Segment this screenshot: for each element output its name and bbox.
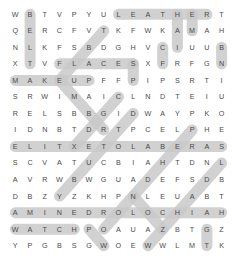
grid-cell[interactable]: W <box>141 105 156 122</box>
grid-cell[interactable]: D <box>82 122 97 139</box>
grid-cell[interactable]: G <box>96 105 111 122</box>
grid-cell[interactable]: A <box>8 204 23 221</box>
grid-cell[interactable]: P <box>67 6 82 23</box>
grid-cell[interactable]: O <box>111 204 126 221</box>
grid-cell[interactable]: H <box>170 204 185 221</box>
grid-cell[interactable]: L <box>170 237 185 254</box>
grid-cell[interactable]: W <box>141 23 156 40</box>
grid-cell[interactable]: I <box>96 89 111 106</box>
grid-cell[interactable]: A <box>155 105 170 122</box>
grid-cell[interactable]: B <box>214 39 229 56</box>
grid-cell[interactable]: W <box>155 237 170 254</box>
grid-cell[interactable]: Q <box>8 23 23 40</box>
grid-cell[interactable]: A <box>8 171 23 188</box>
grid-cell[interactable]: L <box>214 155 229 172</box>
grid-cell[interactable]: H <box>200 122 215 139</box>
grid-cell[interactable]: H <box>155 155 170 172</box>
grid-cell[interactable]: K <box>37 72 52 89</box>
grid-cell[interactable]: C <box>96 155 111 172</box>
grid-cell[interactable]: Z <box>155 221 170 238</box>
grid-cell[interactable]: H <box>96 188 111 205</box>
grid-cell[interactable]: D <box>200 171 215 188</box>
grid-cell[interactable]: P <box>185 105 200 122</box>
grid-cell[interactable]: U <box>126 221 141 238</box>
grid-cell[interactable]: N <box>37 122 52 139</box>
grid-cell[interactable]: T <box>170 155 185 172</box>
grid-cell[interactable]: U <box>82 155 97 172</box>
grid-cell[interactable]: A <box>126 171 141 188</box>
grid-cell[interactable]: D <box>23 122 38 139</box>
grid-cell[interactable]: U <box>200 39 215 56</box>
grid-cell[interactable]: B <box>23 6 38 23</box>
grid-cell[interactable]: U <box>214 89 229 106</box>
grid-cell[interactable]: K <box>82 188 97 205</box>
grid-cell[interactable]: E <box>126 237 141 254</box>
grid-cell[interactable]: D <box>8 188 23 205</box>
grid-cell[interactable]: W <box>96 237 111 254</box>
grid-cell[interactable]: S <box>52 105 67 122</box>
grid-cell[interactable]: M <box>185 23 200 40</box>
grid-cell[interactable]: W <box>8 6 23 23</box>
grid-cell[interactable]: W <box>82 171 97 188</box>
grid-cell[interactable]: A <box>170 23 185 40</box>
grid-cell[interactable]: A <box>200 204 215 221</box>
grid-cell[interactable]: V <box>141 39 156 56</box>
grid-cell[interactable]: B <box>52 237 67 254</box>
grid-cell[interactable]: Y <box>52 188 67 205</box>
grid-cell[interactable]: Z <box>37 188 52 205</box>
grid-cell[interactable]: R <box>185 138 200 155</box>
grid-cell[interactable]: P <box>111 188 126 205</box>
grid-cell[interactable]: E <box>8 138 23 155</box>
grid-cell[interactable]: P <box>155 72 170 89</box>
grid-cell[interactable]: M <box>23 204 38 221</box>
grid-cell[interactable]: F <box>170 171 185 188</box>
grid-cell[interactable]: X <box>141 56 156 73</box>
grid-cell[interactable]: B <box>111 155 126 172</box>
grid-cell[interactable]: E <box>82 138 97 155</box>
grid-cell[interactable]: D <box>82 204 97 221</box>
grid-cell[interactable]: E <box>23 105 38 122</box>
grid-cell[interactable]: X <box>8 56 23 73</box>
grid-cell[interactable]: U <box>170 188 185 205</box>
grid-cell[interactable]: O <box>111 138 126 155</box>
grid-cell[interactable]: P <box>185 122 200 139</box>
grid-cell[interactable]: V <box>37 56 52 73</box>
grid-cell[interactable]: G <box>82 237 97 254</box>
grid-cell[interactable]: E <box>185 6 200 23</box>
grid-cell[interactable]: T <box>214 6 229 23</box>
grid-cell[interactable]: V <box>23 171 38 188</box>
grid-cell[interactable]: W <box>8 221 23 238</box>
grid-cell[interactable]: E <box>155 188 170 205</box>
grid-cell[interactable]: E <box>111 56 126 73</box>
grid-cell[interactable]: V <box>37 155 52 172</box>
grid-cell[interactable]: D <box>185 155 200 172</box>
grid-cell[interactable]: A <box>141 138 156 155</box>
grid-cell[interactable]: G <box>200 56 215 73</box>
grid-cell[interactable]: V <box>82 23 97 40</box>
grid-cell[interactable]: L <box>67 56 82 73</box>
grid-cell[interactable]: V <box>52 6 67 23</box>
grid-cell[interactable]: D <box>155 89 170 106</box>
grid-cell[interactable]: T <box>52 138 67 155</box>
grid-cell[interactable]: N <box>52 204 67 221</box>
grid-cell[interactable]: A <box>23 221 38 238</box>
grid-cell[interactable]: A <box>141 155 156 172</box>
grid-cell[interactable]: T <box>185 221 200 238</box>
grid-cell[interactable]: U <box>67 72 82 89</box>
grid-cell[interactable]: C <box>96 56 111 73</box>
grid-cell[interactable]: I <box>170 39 185 56</box>
grid-cell[interactable]: S <box>214 138 229 155</box>
grid-cell[interactable]: C <box>111 89 126 106</box>
grid-cell[interactable]: R <box>37 171 52 188</box>
grid-cell[interactable]: I <box>200 89 215 106</box>
grid-cell[interactable]: T <box>96 23 111 40</box>
grid-cell[interactable]: F <box>52 39 67 56</box>
grid-cell[interactable]: M <box>185 237 200 254</box>
grid-cell[interactable]: L <box>111 6 126 23</box>
grid-cell[interactable]: O <box>96 221 111 238</box>
grid-cell[interactable]: A <box>185 188 200 205</box>
letter-grid[interactable]: WBTVPYULEATHERTQERCFVTKFWKAMAHNLKFSBDGHV… <box>0 0 237 260</box>
grid-cell[interactable]: I <box>37 138 52 155</box>
grid-cell[interactable]: P <box>82 72 97 89</box>
grid-cell[interactable]: F <box>67 23 82 40</box>
